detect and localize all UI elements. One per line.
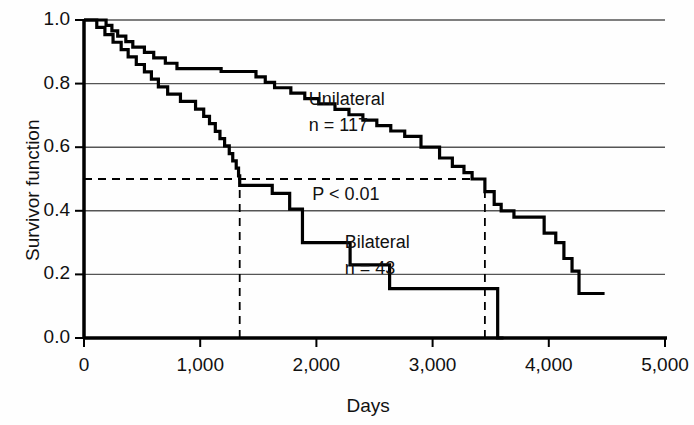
x-tick-label-3,000: 3,000 (383, 354, 483, 376)
unilateral-label: Unilateral (309, 89, 385, 110)
x-tick-label-0: 0 (34, 354, 134, 376)
bilateral-label: Bilateral (345, 232, 410, 253)
y-tick-label-0.0: 0.0 (44, 326, 70, 348)
y-tick-label-1.0: 1.0 (44, 8, 70, 30)
y-tick-label-0.8: 0.8 (44, 72, 70, 94)
y-axis-title: Survivor function (22, 119, 44, 261)
y-tick-label-0.2: 0.2 (44, 262, 70, 284)
x-tick-label-1,000: 1,000 (150, 354, 250, 376)
unilateral-n: n = 117 (309, 115, 368, 136)
reference-lines-group (84, 179, 485, 338)
survival-curve-figure: 0.00.20.40.60.81.0 01,0002,0003,0004,000… (0, 0, 694, 425)
x-axis-title: Days (347, 395, 390, 417)
x-tick-label-5,000: 5,000 (615, 354, 694, 376)
pvalue: P < 0.01 (312, 184, 379, 205)
x-tick-label-2,000: 2,000 (266, 354, 366, 376)
survival-curves-group (84, 20, 605, 338)
y-tick-label-0.4: 0.4 (44, 199, 70, 221)
x-tick-label-4,000: 4,000 (499, 354, 599, 376)
y-tick-label-0.6: 0.6 (44, 135, 70, 157)
bilateral-n: n = 43 (345, 258, 396, 279)
